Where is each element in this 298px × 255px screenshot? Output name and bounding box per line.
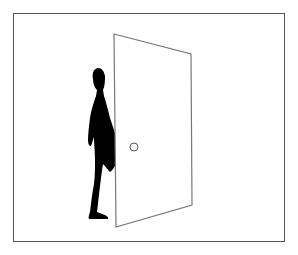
doorknob-icon (130, 143, 138, 151)
door-scene-illustration (0, 0, 298, 255)
open-door (114, 34, 192, 227)
illustration-canvas: Black silhouette of a person standing be… (0, 0, 298, 255)
